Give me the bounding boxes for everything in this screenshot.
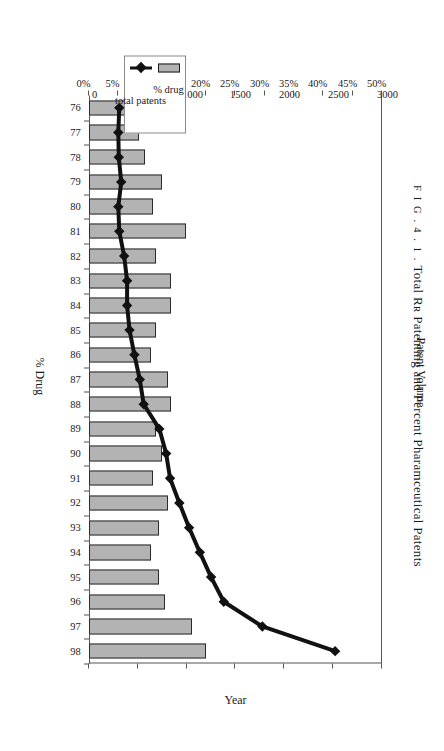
year-tick-label: 96 [70,596,81,607]
line-marker [122,300,132,310]
line-marker [124,324,134,334]
year-tick-label: 81 [70,225,81,236]
year-tick-label: 89 [70,423,81,434]
line-marker [122,275,132,285]
volume-tick [283,663,284,668]
percent-tick-label: 45% [338,78,357,89]
line-marker [113,201,123,211]
percent-tick-label: 40% [308,78,327,89]
line-marker [161,448,171,458]
line-marker [135,374,145,384]
line-marker [113,127,123,137]
percent-tick-label: 30% [250,78,269,89]
line-path [118,107,335,650]
percent-axis-title: % Drug [32,357,47,395]
percent-tick [264,90,265,95]
legend-label-drug: % drug [154,84,185,95]
percent-tick-label: 25% [220,78,239,89]
percent-tick [235,90,236,95]
year-tick-label: 92 [70,497,81,508]
percent-tick [88,90,89,95]
year-tick-label: 94 [70,546,81,557]
year-tick-label: 82 [70,250,81,261]
plot-area: 050010001500200025003000 0%5%10%15%20%25… [89,95,382,663]
year-tick-label: 95 [70,571,81,582]
year-tick-label: 83 [70,275,81,286]
percent-tick [293,90,294,95]
year-tick-label: 86 [70,349,81,360]
year-tick-label: 77 [70,127,81,138]
percent-tick-label: 20% [191,78,210,89]
line-marker [330,645,340,655]
percent-tick-label: 0% [77,78,91,89]
line-marker [114,226,124,236]
figure-label: F I G . [412,185,423,224]
chart-legend: % drug total patents [124,55,186,133]
percent-tick-label: 5% [106,78,120,89]
line-diamond-icon [130,63,152,72]
volume-tick [137,663,138,668]
volume-tick [186,663,187,668]
year-tick-label: 76 [70,102,81,113]
figure-stage: F I G . 4 . 1 . Total Rʀ Patenting and P… [0,0,444,751]
volume-axis-title: Patent Volume [413,337,428,407]
year-tick-label: 80 [70,201,81,212]
percent-tick [205,90,206,95]
legend-item-total: total patents [130,63,152,125]
volume-tick [235,663,236,668]
year-tick-label: 84 [70,299,81,310]
line-marker [116,176,126,186]
year-tick-label: 93 [70,522,81,533]
year-tick-label: 85 [70,324,81,335]
volume-tick [381,663,382,668]
figure-title-text: Total Rʀ Patenting and Percent Pharamceu… [411,265,426,566]
line-marker [114,152,124,162]
bar-swatch-icon [158,63,180,72]
year-tick-label: 78 [70,151,81,162]
year-tick-label: 91 [70,472,81,483]
line-marker [119,250,129,260]
percent-tick [381,90,382,95]
line-marker [165,473,175,483]
year-tick-label: 87 [70,374,81,385]
category-axis-title: Year [225,693,247,708]
percent-tick [352,90,353,95]
year-tick-label: 97 [70,620,81,631]
line-marker [129,349,139,359]
figure-number: 4 . 1 . [412,227,423,262]
line-series [89,95,382,663]
legend-label-total: total patents [115,94,166,105]
percent-tick-label: 50% [367,78,386,89]
year-tick-label: 88 [70,398,81,409]
year-tick-label: 98 [70,645,81,656]
percent-tick [322,90,323,95]
year-tick-label: 79 [70,176,81,187]
year-tick-label: 90 [70,448,81,459]
percent-tick-label: 35% [279,78,298,89]
volume-tick [332,663,333,668]
